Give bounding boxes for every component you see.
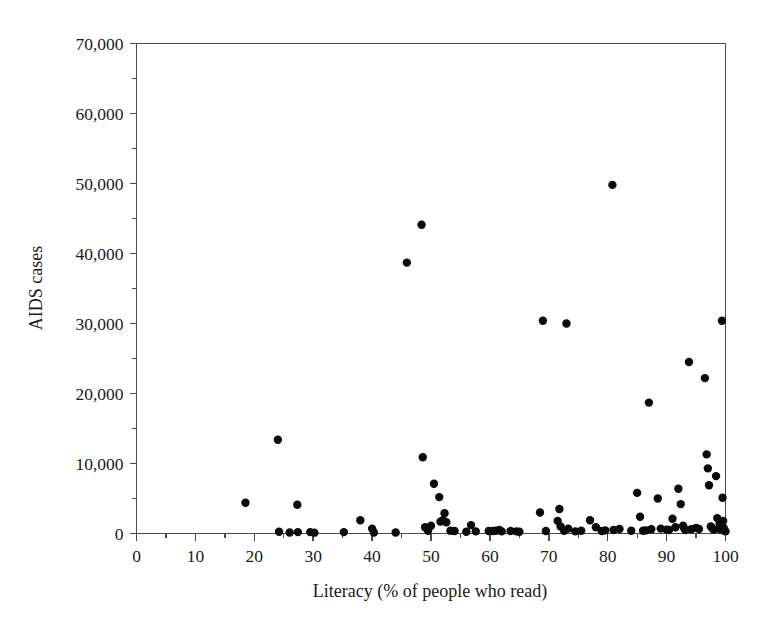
- data-point: [695, 525, 703, 533]
- data-point: [718, 494, 726, 502]
- data-point: [435, 493, 443, 501]
- data-point: [442, 518, 450, 526]
- data-point: [702, 450, 710, 458]
- x-tick-label: 100: [712, 546, 739, 566]
- x-axis-title: Literacy (% of people who read): [313, 581, 547, 602]
- data-point: [419, 453, 427, 461]
- x-tick-label: 70: [540, 546, 558, 566]
- data-point: [356, 516, 364, 524]
- data-point: [636, 513, 644, 521]
- data-point: [615, 525, 623, 533]
- data-point: [497, 527, 505, 535]
- data-point: [645, 398, 653, 406]
- x-tick-label: 80: [599, 546, 617, 566]
- x-tick-label: 60: [481, 546, 499, 566]
- data-point: [440, 509, 448, 517]
- data-points-layer: [241, 181, 729, 537]
- y-axis-tick-labels: 010,00020,00030,00040,00050,00060,00070,…: [75, 34, 123, 544]
- x-tick-label: 10: [187, 546, 205, 566]
- y-tick-label: 30,000: [75, 314, 123, 334]
- data-point: [671, 523, 679, 531]
- data-point: [633, 489, 641, 497]
- y-tick-label: 10,000: [75, 454, 123, 474]
- data-point: [677, 500, 685, 508]
- data-point: [391, 528, 399, 536]
- data-point: [701, 374, 709, 382]
- data-point: [427, 522, 435, 530]
- y-axis-title: AIDS cases: [26, 246, 46, 330]
- data-point: [704, 464, 712, 472]
- data-point: [294, 528, 302, 536]
- data-point: [562, 319, 570, 327]
- data-point: [721, 527, 729, 535]
- x-tick-label: 30: [304, 546, 322, 566]
- y-tick-label: 40,000: [75, 244, 123, 264]
- data-point: [555, 505, 563, 513]
- y-tick-label: 70,000: [75, 34, 123, 54]
- data-point: [601, 526, 609, 534]
- chart-canvas: 0102030405060708090100 010,00020,00030,0…: [0, 0, 773, 630]
- data-point: [627, 527, 635, 535]
- data-point: [310, 528, 318, 536]
- data-point: [674, 485, 682, 493]
- data-point: [608, 181, 616, 189]
- data-point: [340, 528, 348, 536]
- data-point: [536, 508, 544, 516]
- data-point: [274, 436, 282, 444]
- data-point: [654, 494, 662, 502]
- data-point: [275, 528, 283, 536]
- data-point: [430, 480, 438, 488]
- data-point: [293, 501, 301, 509]
- data-point: [515, 528, 523, 536]
- data-point: [668, 515, 676, 523]
- x-tick-label: 0: [132, 546, 141, 566]
- data-point: [403, 258, 411, 266]
- data-point: [417, 221, 425, 229]
- x-tick-label: 40: [363, 546, 381, 566]
- data-point: [370, 528, 378, 536]
- x-axis-tick-labels: 0102030405060708090100: [132, 546, 739, 566]
- y-tick-label: 60,000: [75, 104, 123, 124]
- data-point: [647, 525, 655, 533]
- data-point: [712, 472, 720, 480]
- data-point: [586, 516, 594, 524]
- data-point: [542, 527, 550, 535]
- x-tick-label: 20: [246, 546, 264, 566]
- data-point: [241, 499, 249, 507]
- y-tick-label: 50,000: [75, 174, 123, 194]
- data-point: [577, 527, 585, 535]
- data-point: [285, 528, 293, 536]
- y-tick-label: 20,000: [75, 384, 123, 404]
- data-point: [472, 527, 480, 535]
- data-point: [705, 481, 713, 489]
- x-tick-label: 50: [422, 546, 440, 566]
- scatter-chart-figure: 0102030405060708090100 010,00020,00030,0…: [0, 0, 773, 630]
- data-point: [450, 527, 458, 535]
- y-tick-label: 0: [115, 524, 124, 544]
- axis-frame: [137, 44, 726, 534]
- data-point: [718, 317, 726, 325]
- data-point: [539, 317, 547, 325]
- data-point: [685, 358, 693, 366]
- x-tick-label: 90: [658, 546, 676, 566]
